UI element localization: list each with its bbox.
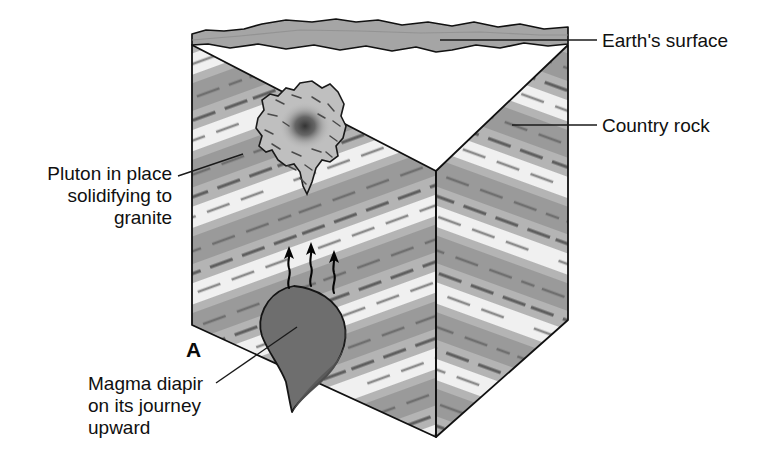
label-country-rock: Country rock: [602, 115, 710, 136]
label-magma-line-1: Magma diapir: [88, 373, 204, 394]
block-diagram: Earth's surface Country rock Pluton in p…: [0, 0, 760, 472]
panel-letter-a: A: [186, 338, 201, 361]
label-pluton-line-3: granite: [114, 207, 172, 228]
figure-root: Earth's surface Country rock Pluton in p…: [0, 0, 760, 472]
label-pluton-line-2: solidifying to: [67, 185, 172, 206]
label-pluton-line-1: Pluton in place: [47, 163, 172, 184]
label-magma-line-3: upward: [88, 417, 150, 438]
label-earths-surface: Earth's surface: [602, 30, 728, 51]
label-magma-line-2: on its journey: [88, 395, 202, 416]
